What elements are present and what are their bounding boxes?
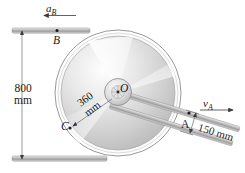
point-b-marker <box>56 29 59 32</box>
upper-cable <box>12 28 90 33</box>
acceleration-b-label: aB <box>46 3 56 18</box>
dimension-800-value: 800 <box>4 82 42 94</box>
point-o-label: O <box>120 82 128 94</box>
point-a-marker <box>187 111 190 114</box>
point-b-label: B <box>53 34 60 46</box>
lower-cable <box>12 156 107 161</box>
velocity-a-label: vA <box>203 98 213 113</box>
mechanics-figure: 800 mm 360 mm 150 mm aB vA B O C A <box>0 0 245 173</box>
velocity-a-subscript: A <box>208 103 213 112</box>
center-point-marker <box>117 91 120 94</box>
dimension-800-unit: mm <box>4 94 42 106</box>
point-c-label: C <box>61 120 69 132</box>
acceleration-b-subscript: B <box>52 8 57 17</box>
point-a-label: A <box>181 118 189 130</box>
dimension-800-label: 800 mm <box>4 82 42 106</box>
